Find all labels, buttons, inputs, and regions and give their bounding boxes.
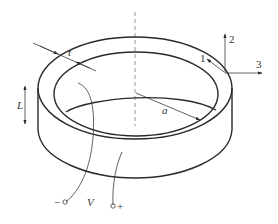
thickness-label: t [68, 46, 72, 58]
inner-wall-bottom-edge [66, 98, 216, 112]
positive-terminal-label: + [117, 200, 123, 212]
inner-top-rim [54, 52, 218, 136]
negative-terminal-label: − [54, 196, 60, 208]
axis-1-label: 1 [200, 52, 206, 64]
radius-arrow [136, 93, 200, 120]
thickness-arrow-outer [40, 46, 58, 54]
positive-lead-wire [113, 152, 122, 205]
height-label: L [16, 99, 23, 111]
voltage-label: V [87, 196, 95, 208]
axis-3-label: 3 [256, 58, 262, 70]
negative-lead-wire [66, 83, 94, 202]
ring-diagram: t a L 2 3 1 − + V [0, 0, 278, 224]
axis-2-label: 2 [229, 33, 235, 45]
outer-bottom-edge [38, 130, 232, 178]
radius-label: a [162, 104, 168, 116]
